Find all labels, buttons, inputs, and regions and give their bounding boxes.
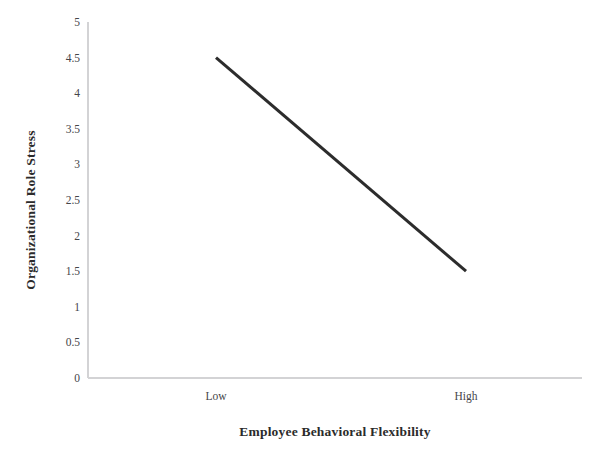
plot-area <box>0 0 606 460</box>
series-line <box>216 58 466 272</box>
axis-lines <box>88 22 582 378</box>
chart-figure: Organizational Role Stress Employee Beha… <box>0 0 606 460</box>
data-series-layer <box>216 58 466 272</box>
